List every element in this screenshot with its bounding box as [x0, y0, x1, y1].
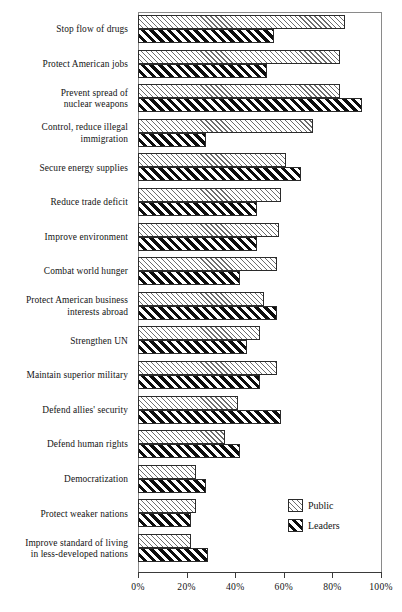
- x-axis-tick-label: 40%: [210, 581, 260, 592]
- category-label: Stop flow of drugs: [0, 24, 128, 36]
- bar-public: [138, 361, 277, 375]
- bar-leaders: [138, 98, 362, 112]
- bar-public: [138, 534, 191, 548]
- x-axis-tick-label: 80%: [307, 581, 357, 592]
- category-label: Reduce trade deficit: [0, 197, 128, 209]
- category-label: Defend human rights: [0, 439, 128, 451]
- bar-public: [138, 188, 281, 202]
- legend-label-public: Public: [308, 500, 334, 511]
- legend-swatch-leaders-icon: [288, 519, 303, 532]
- bar-public: [138, 84, 340, 98]
- bars-area: [138, 12, 381, 572]
- bar-public: [138, 499, 196, 513]
- legend-swatch-public-icon: [288, 499, 303, 512]
- x-axis-tick: [381, 572, 382, 578]
- x-axis-tick-label: 60%: [259, 581, 309, 592]
- bar-public: [138, 257, 277, 271]
- x-axis-tick: [284, 572, 285, 578]
- category-label: Improve standard of livingin less-develo…: [0, 538, 128, 561]
- x-axis-tick-label: 100%: [356, 581, 402, 592]
- bar-leaders: [138, 202, 257, 216]
- bar-public: [138, 292, 264, 306]
- bar-leaders: [138, 444, 240, 458]
- bar-leaders: [138, 479, 206, 493]
- category-label: Democratization: [0, 474, 128, 486]
- category-label: Control, reduce illegalimmigration: [0, 122, 128, 145]
- category-label: Strengthen UN: [0, 336, 128, 348]
- bar-leaders: [138, 167, 301, 181]
- x-axis-tick: [187, 572, 188, 578]
- bar-public: [138, 326, 260, 340]
- bar-leaders: [138, 375, 260, 389]
- bar-leaders: [138, 410, 281, 424]
- category-label: Protect American businessinterests abroa…: [0, 295, 128, 318]
- category-label: Protect American jobs: [0, 59, 128, 71]
- bar-leaders: [138, 513, 191, 527]
- legend-item-leaders[interactable]: Leaders: [288, 515, 340, 535]
- category-label: Defend allies' security: [0, 405, 128, 417]
- bar-public: [138, 50, 340, 64]
- bar-public: [138, 153, 286, 167]
- x-axis-tick: [332, 572, 333, 578]
- legend-item-public[interactable]: Public: [288, 495, 340, 515]
- bar-public: [138, 465, 196, 479]
- category-label: Combat world hunger: [0, 266, 128, 278]
- bar-leaders: [138, 340, 247, 354]
- x-axis-tick: [235, 572, 236, 578]
- bar-chart: Stop flow of drugsProtect American jobsP…: [0, 0, 402, 612]
- bar-leaders: [138, 548, 208, 562]
- category-label: Maintain superior military: [0, 370, 128, 382]
- bar-public: [138, 430, 225, 444]
- bar-leaders: [138, 29, 274, 43]
- category-label: Improve environment: [0, 232, 128, 244]
- x-axis-tick-label: 20%: [162, 581, 212, 592]
- bar-leaders: [138, 64, 267, 78]
- bar-leaders: [138, 306, 277, 320]
- bar-public: [138, 223, 279, 237]
- category-label: Secure energy supplies: [0, 163, 128, 175]
- category-label: Protect weaker nations: [0, 509, 128, 521]
- legend-label-leaders: Leaders: [308, 520, 340, 531]
- legend: Public Leaders: [288, 495, 340, 535]
- bar-public: [138, 15, 345, 29]
- x-axis-tick-label: 0%: [113, 581, 163, 592]
- bar-public: [138, 396, 238, 410]
- x-axis-tick: [138, 572, 139, 578]
- bar-leaders: [138, 271, 240, 285]
- bar-public: [138, 119, 313, 133]
- category-label: Prevent spread ofnuclear weapons: [0, 88, 128, 111]
- bar-leaders: [138, 237, 257, 251]
- bar-leaders: [138, 133, 206, 147]
